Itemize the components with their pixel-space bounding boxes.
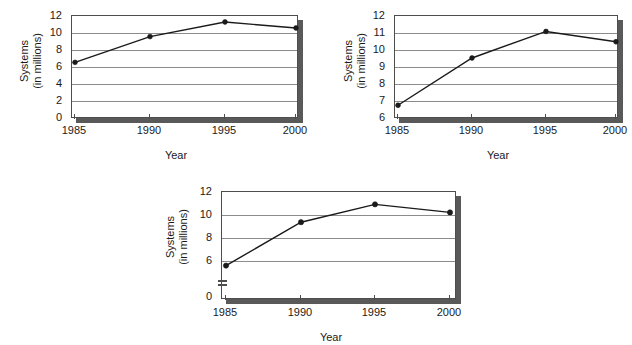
y-tick-label: 6 — [359, 112, 385, 123]
x-tick-mark — [149, 114, 150, 119]
y-tick-label: 4 — [36, 78, 62, 89]
x-tick-label: 1990 — [126, 125, 172, 136]
x-tick-label: 1995 — [522, 125, 568, 136]
plot-area-wrapper — [221, 191, 461, 304]
y-tick-label: 0 — [186, 291, 212, 302]
y-tick-label: 8 — [359, 78, 385, 89]
x-tick-label: 1985 — [51, 125, 97, 136]
y-tick-label: 9 — [359, 61, 385, 72]
y-axis-title-line1: Systems — [18, 21, 31, 101]
axis-break-icon — [218, 280, 227, 290]
series-line-systems — [395, 16, 619, 119]
x-tick-mark — [449, 295, 450, 300]
y-tick-label: 12 — [36, 10, 62, 21]
x-tick-mark — [374, 295, 375, 300]
x-tick-label: 1995 — [201, 125, 247, 136]
x-tick-mark — [545, 114, 546, 119]
chart-bottom-center: Systems (in millions) 12 10 8 6 0 — [150, 178, 480, 345]
x-tick-mark — [397, 114, 398, 119]
x-tick-mark — [74, 114, 75, 119]
plot-area-wrapper — [71, 15, 303, 123]
y-axis-title-line1: Systems — [164, 197, 177, 277]
x-axis-title: Year — [473, 150, 523, 161]
series-line-systems — [72, 16, 299, 119]
plot-area — [71, 15, 298, 118]
x-tick-label: 1990 — [277, 307, 323, 318]
x-axis-title: Year — [306, 332, 356, 343]
x-tick-label: 2000 — [592, 125, 632, 136]
x-tick-mark — [615, 114, 616, 119]
y-tick-label: 11 — [359, 27, 385, 38]
x-tick-label: 1990 — [448, 125, 494, 136]
x-tick-mark — [471, 114, 472, 119]
y-tick-label: 12 — [186, 186, 212, 197]
y-tick-label: 8 — [186, 232, 212, 243]
x-tick-label: 2000 — [426, 307, 472, 318]
x-tick-mark — [225, 295, 226, 300]
y-tick-label: 8 — [36, 44, 62, 55]
chart-top-left: Systems (in millions) 12 10 8 6 4 2 0 — [0, 0, 320, 170]
y-tick-label: 2 — [36, 95, 62, 106]
y-tick-label: 0 — [36, 112, 62, 123]
y-tick-label: 10 — [359, 44, 385, 55]
y-axis-title-line1: Systems — [342, 21, 355, 101]
x-axis-title: Year — [151, 150, 201, 161]
y-tick-label: 12 — [359, 10, 385, 21]
y-tick-label: 10 — [36, 27, 62, 38]
y-tick-label: 6 — [36, 61, 62, 72]
x-tick-label: 2000 — [272, 125, 318, 136]
x-tick-label: 1995 — [351, 307, 397, 318]
x-tick-mark — [295, 114, 296, 119]
y-tick-label: 7 — [359, 95, 385, 106]
series-line-systems — [222, 192, 457, 300]
plot-area — [394, 15, 618, 118]
y-tick-label: 6 — [186, 255, 212, 266]
x-tick-mark — [224, 114, 225, 119]
chart-top-right: Systems (in millions) 12 11 10 9 8 7 6 — [313, 0, 627, 170]
x-tick-mark — [300, 295, 301, 300]
y-tick-label: 10 — [186, 209, 212, 220]
x-tick-label: 1985 — [202, 307, 248, 318]
x-tick-label: 1985 — [374, 125, 420, 136]
plot-area-wrapper — [394, 15, 623, 123]
plot-area — [221, 191, 456, 299]
